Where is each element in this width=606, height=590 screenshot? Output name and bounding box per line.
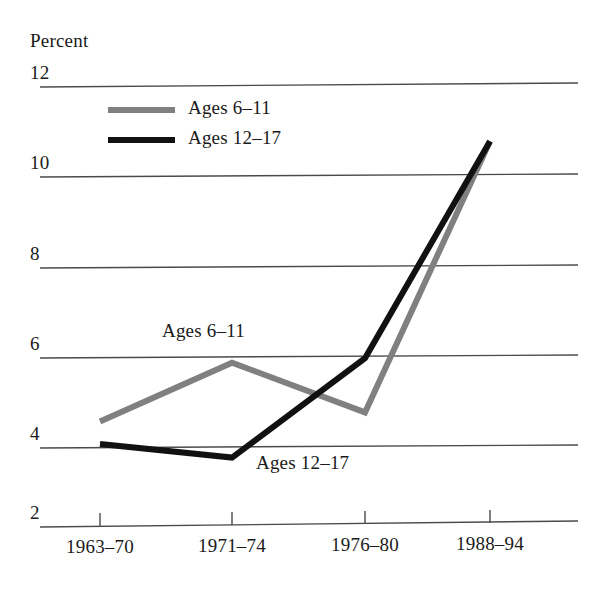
series-line-ages-12-17: [100, 141, 490, 457]
y-tick-label-6: 6: [30, 333, 40, 355]
legend-swatches: [108, 110, 175, 140]
y-tick-label-10: 10: [30, 152, 49, 174]
y-tick-label-2: 2: [30, 502, 40, 524]
annotation-ages-6-11: Ages 6–11: [160, 320, 247, 342]
x-tick-label-1971-74: 1971–74: [172, 535, 292, 557]
legend-label-ages-12-17: Ages 12–17: [188, 127, 281, 149]
gridline-6: [40, 355, 578, 358]
legend-label-ages-6-11: Ages 6–11: [188, 97, 271, 119]
x-tick-label-1988-94: 1988–94: [430, 533, 550, 555]
gridline-10: [40, 174, 578, 177]
gridline-12: [40, 83, 578, 87]
chart-plot-area: [0, 0, 606, 590]
x-tick-label-1976-80: 1976–80: [305, 534, 425, 556]
y-tick-label-12: 12: [30, 62, 49, 84]
y-tick-label-8: 8: [30, 243, 40, 265]
axis-line-bottom: [40, 521, 578, 527]
series-line-ages-6-11: [100, 141, 490, 421]
annotation-ages-12-17: Ages 12–17: [254, 452, 351, 474]
chart-figure: Percent 12 10 8 6 4 2: [0, 0, 606, 590]
gridline-8: [40, 265, 578, 268]
x-tick-label-1963-70: 1963–70: [40, 536, 160, 558]
y-tick-label-4: 4: [30, 423, 40, 445]
